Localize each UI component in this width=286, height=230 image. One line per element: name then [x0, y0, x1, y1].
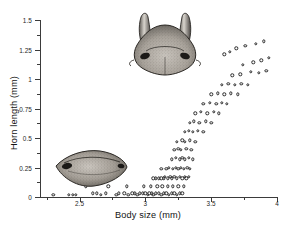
- y-tick-0.25: [35, 168, 40, 169]
- x-tick-label-3: 3: [144, 200, 148, 207]
- data-point: [141, 192, 144, 195]
- y-tick-label-1.5: 1.5: [0, 17, 32, 24]
- data-point: [238, 73, 241, 76]
- data-point: [182, 167, 185, 170]
- data-point: [166, 185, 169, 188]
- data-point: [209, 93, 212, 96]
- data-point: [148, 192, 151, 195]
- data-point: [178, 158, 181, 161]
- data-point: [204, 120, 207, 123]
- data-point: [267, 56, 270, 59]
- data-point: [220, 101, 223, 104]
- y-tick-minor: [37, 123, 40, 124]
- data-point: [173, 175, 176, 178]
- data-point: [228, 50, 231, 53]
- data-point: [154, 192, 157, 195]
- data-point: [183, 140, 186, 143]
- data-point: [188, 121, 191, 124]
- data-point: [249, 70, 252, 73]
- data-point: [234, 47, 237, 50]
- data-point: [138, 192, 141, 195]
- data-point: [115, 193, 118, 196]
- data-point: [187, 129, 190, 132]
- data-point: [177, 147, 180, 150]
- data-point: [155, 185, 158, 188]
- y-tick-1.5: [35, 20, 40, 21]
- scatter-plot-figure: 2.533.54 00.250.50.7511.251.5 Body size …: [0, 0, 286, 230]
- data-point: [225, 102, 228, 105]
- data-point: [252, 61, 255, 64]
- data-point: [104, 192, 107, 195]
- data-point: [157, 192, 160, 195]
- data-point: [51, 193, 54, 196]
- data-point: [159, 176, 162, 179]
- data-point: [67, 193, 70, 196]
- data-point: [236, 93, 239, 96]
- data-point: [177, 167, 180, 170]
- data-point: [192, 120, 195, 123]
- data-point: [220, 83, 223, 86]
- data-point: [170, 192, 173, 195]
- data-point: [161, 185, 164, 188]
- data-point: [167, 193, 170, 196]
- data-point: [149, 185, 152, 188]
- data-point: [223, 93, 226, 96]
- data-point: [159, 193, 162, 196]
- data-point: [188, 167, 191, 170]
- data-point: [184, 176, 187, 179]
- data-point: [146, 193, 149, 196]
- y-axis-line: [40, 20, 41, 198]
- data-point: [174, 166, 177, 169]
- data-point: [217, 112, 220, 115]
- x-tick-label-4: 4: [275, 200, 279, 207]
- data-point: [154, 176, 157, 179]
- data-point: [162, 176, 165, 179]
- data-point: [265, 69, 268, 72]
- data-point: [91, 192, 94, 195]
- data-point: [117, 192, 120, 195]
- data-point: [182, 185, 185, 188]
- data-point: [183, 130, 186, 133]
- data-point: [173, 192, 176, 195]
- y-tick-label-0: 0: [0, 194, 32, 201]
- data-point: [136, 193, 139, 196]
- y-tick-minor: [37, 35, 40, 36]
- minor-male-head-illustration: [50, 146, 130, 190]
- data-point: [212, 110, 215, 113]
- data-point: [254, 42, 257, 45]
- x-tick-minor: [178, 197, 179, 200]
- data-point: [184, 147, 187, 150]
- x-tick-label-3.5: 3.5: [207, 200, 216, 207]
- y-tick-0.75: [35, 109, 40, 110]
- y-tick-0.5: [35, 138, 40, 139]
- data-point: [216, 91, 219, 94]
- data-point: [180, 192, 183, 195]
- data-point: [166, 176, 169, 179]
- data-point: [175, 193, 178, 196]
- data-point: [167, 166, 170, 169]
- data-point: [173, 148, 176, 151]
- data-point: [152, 193, 155, 196]
- data-point: [183, 175, 186, 178]
- data-point: [170, 158, 173, 161]
- y-tick-1.25: [35, 50, 40, 51]
- data-point: [130, 192, 133, 195]
- data-point: [178, 192, 181, 195]
- data-point: [170, 176, 173, 179]
- data-point: [178, 175, 181, 178]
- data-point: [162, 192, 165, 195]
- data-point: [262, 40, 265, 43]
- x-tick-minor: [47, 197, 48, 200]
- data-point: [240, 82, 243, 85]
- data-point: [198, 121, 201, 124]
- y-tick-minor: [37, 182, 40, 183]
- data-point: [187, 175, 190, 178]
- data-point: [71, 193, 74, 196]
- data-point: [223, 53, 226, 56]
- data-point: [206, 112, 209, 115]
- data-point: [123, 192, 126, 195]
- data-point: [180, 156, 183, 159]
- data-point: [191, 158, 194, 161]
- data-point: [144, 192, 147, 195]
- y-tick-minor: [37, 153, 40, 154]
